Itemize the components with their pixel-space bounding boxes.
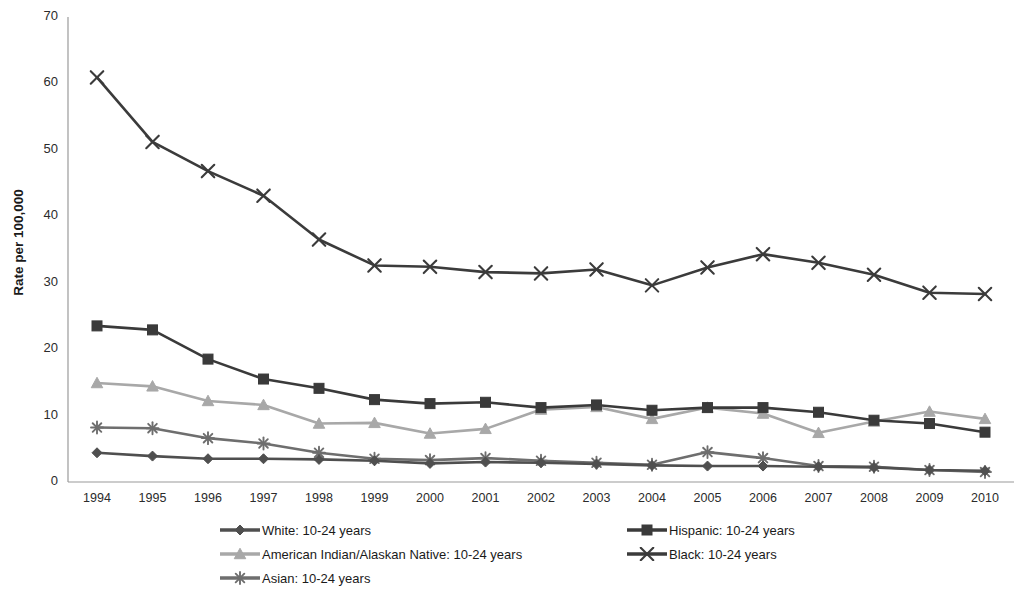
legend-marker-x-icon	[625, 547, 669, 561]
legend-marker-diamond-icon	[218, 523, 262, 537]
marker-square	[536, 403, 546, 413]
marker-diamond	[92, 448, 102, 458]
marker-diamond	[703, 461, 713, 471]
marker-square	[259, 374, 269, 384]
series-line	[97, 326, 985, 432]
marker-square	[314, 383, 324, 393]
marker-square	[925, 419, 935, 429]
series-x	[91, 71, 992, 300]
marker-square	[203, 354, 213, 364]
marker-square	[814, 407, 824, 417]
legend-item[interactable]: American Indian/Alaskan Native: 10-24 ye…	[218, 542, 522, 566]
series-square	[92, 321, 990, 437]
legend-marker-star-icon	[218, 571, 262, 585]
marker-square	[425, 399, 435, 409]
marker-square	[758, 403, 768, 413]
legend-right-column: Hispanic: 10-24 yearsBlack: 10-24 years	[625, 518, 795, 566]
marker-diamond	[259, 454, 269, 464]
plot-area	[0, 0, 1026, 590]
marker-square	[869, 415, 879, 425]
marker-square	[980, 427, 990, 437]
marker-square	[92, 321, 102, 331]
series-diamond	[92, 448, 990, 476]
series-star	[91, 422, 991, 479]
marker-diamond	[536, 458, 546, 468]
line-chart: Rate per 100,000 706050403020100 1994199…	[0, 0, 1026, 590]
legend-item[interactable]: Black: 10-24 years	[625, 542, 795, 566]
legend-item[interactable]: White: 10-24 years	[218, 518, 522, 542]
legend-item-label: American Indian/Alaskan Native: 10-24 ye…	[262, 548, 522, 561]
marker-square	[148, 325, 158, 335]
legend-item[interactable]: Hispanic: 10-24 years	[625, 518, 795, 542]
legend-item-label: Black: 10-24 years	[669, 548, 777, 561]
marker-diamond	[235, 525, 245, 535]
series-line	[97, 77, 985, 294]
legend-item[interactable]: Asian: 10-24 years	[218, 566, 522, 590]
legend-left-column: White: 10-24 yearsAmerican Indian/Alaska…	[218, 518, 522, 590]
legend-item-label: White: 10-24 years	[262, 524, 371, 537]
legend-item-label: Hispanic: 10-24 years	[669, 524, 795, 537]
marker-square	[647, 405, 657, 415]
marker-square	[370, 395, 380, 405]
marker-square	[481, 397, 491, 407]
marker-square	[703, 403, 713, 413]
legend-marker-square-icon	[625, 523, 669, 537]
marker-diamond	[148, 451, 158, 461]
marker-square	[642, 525, 652, 535]
legend-marker-triangle-icon	[218, 547, 262, 561]
marker-square	[592, 400, 602, 410]
marker-diamond	[203, 454, 213, 464]
legend-item-label: Asian: 10-24 years	[262, 572, 370, 585]
